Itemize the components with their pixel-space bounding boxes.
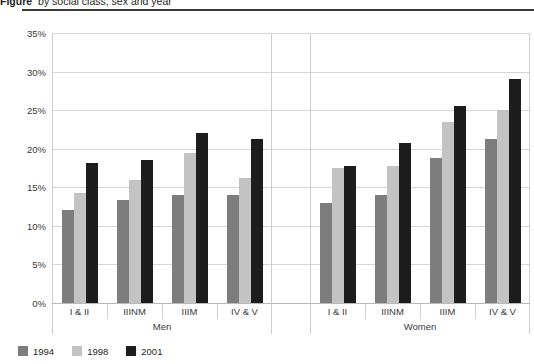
plot-block-separator (271, 33, 272, 303)
title-divider-rule (22, 9, 534, 11)
category-band-separator (271, 304, 272, 319)
figure-container: Figureby social class, sex and year 0%5%… (0, 0, 534, 364)
bar-women-ivv-2001 (509, 79, 521, 303)
group-label-women: Women (310, 319, 530, 334)
category-label: IIINM (365, 304, 420, 319)
group-label-men: Men (52, 319, 272, 334)
category-band-separator (365, 304, 366, 319)
group-band-separator (52, 319, 53, 334)
plot-block-separator (310, 33, 311, 303)
bar-women-ivv-1994 (485, 139, 497, 303)
category-label: I & II (52, 304, 107, 319)
legend-label: 1994 (33, 346, 54, 357)
category-label: IV & V (217, 304, 272, 319)
legend-swatch-icon (18, 346, 28, 356)
legend-label: 2001 (141, 346, 162, 357)
bar-men-iiim-1994 (172, 195, 184, 303)
category-label: IIINM (107, 304, 162, 319)
bar-men-iii-1998 (74, 193, 86, 303)
bar-women-iiim-1994 (430, 158, 442, 303)
category-label: IIIM (420, 304, 475, 319)
category-band-separator (52, 304, 53, 319)
gridline-30 (52, 72, 530, 73)
y-axis-tick-label: 35% (27, 28, 46, 39)
legend-swatch-icon (72, 346, 82, 356)
bar-women-ivv-1998 (497, 110, 509, 303)
plot-block-separator (52, 33, 53, 303)
category-band-separator (107, 304, 108, 319)
y-axis-tick-label: 5% (32, 259, 46, 270)
bar-men-iii-2001 (86, 163, 98, 303)
bar-women-iii-1998 (332, 168, 344, 303)
bar-men-iiinm-1998 (129, 180, 141, 303)
plot-block-separator (529, 33, 530, 303)
group-band-separator (529, 319, 530, 334)
category-band-separator (475, 304, 476, 319)
legend-swatch-icon (126, 346, 136, 356)
figure-title: Figureby social class, sex and year (0, 0, 534, 7)
bar-men-ivv-2001 (251, 139, 263, 303)
y-axis-tick-label: 0% (32, 298, 46, 309)
bar-men-ivv-1994 (227, 195, 239, 303)
legend-item-1998[interactable]: 1998 (72, 346, 108, 357)
legend-label: 1998 (87, 346, 108, 357)
category-label: IV & V (475, 304, 530, 319)
chart-legend: 199419982001 (18, 344, 176, 358)
bar-men-iii-1994 (62, 210, 74, 303)
category-band-separator (529, 304, 530, 319)
group-band-separator (271, 319, 272, 334)
legend-item-1994[interactable]: 1994 (18, 346, 54, 357)
figure-title-label: Figure (0, 0, 32, 7)
bar-women-iiinm-1994 (375, 195, 387, 303)
y-axis-tick-label: 30% (27, 66, 46, 77)
category-label: I & II (310, 304, 365, 319)
plot-area: 0%5%10%15%20%25%30%35% (52, 33, 530, 303)
legend-item-2001[interactable]: 2001 (126, 346, 162, 357)
category-band-separator (420, 304, 421, 319)
group-label-band: MenWomen (52, 319, 530, 334)
category-label: IIIM (162, 304, 217, 319)
bar-women-iiinm-2001 (399, 143, 411, 303)
figure-title-text: by social class, sex and year (38, 0, 172, 7)
group-band-separator (310, 319, 311, 334)
bar-women-iii-2001 (344, 166, 356, 303)
bar-men-iiinm-1994 (117, 200, 129, 303)
bar-women-iiinm-1998 (387, 166, 399, 303)
bar-men-iiinm-2001 (141, 160, 153, 303)
bar-men-ivv-1998 (239, 178, 251, 303)
category-band-separator (217, 304, 218, 319)
bar-women-iii-1994 (320, 203, 332, 303)
bar-women-iiim-2001 (454, 106, 466, 303)
y-axis-tick-label: 25% (27, 105, 46, 116)
gridline-35 (52, 33, 530, 34)
bar-men-iiim-1998 (184, 153, 196, 303)
y-axis-tick-label: 15% (27, 182, 46, 193)
category-band-separator (310, 304, 311, 319)
y-axis-tick-label: 10% (27, 220, 46, 231)
bar-women-iiim-1998 (442, 122, 454, 303)
category-label-band: I & IIIIINMIIIMIV & VI & IIIIINMIIIMIV &… (52, 304, 530, 319)
y-axis-tick-label: 20% (27, 143, 46, 154)
bar-men-iiim-2001 (196, 133, 208, 303)
category-band-separator (162, 304, 163, 319)
